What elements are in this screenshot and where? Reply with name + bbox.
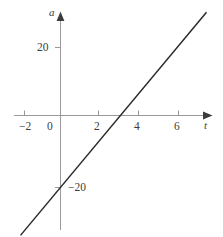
x-tick-label-0: 0 [47, 121, 53, 133]
y-tick-label-20: 20 [37, 42, 49, 54]
x-axis-label: t [204, 120, 207, 131]
x-tick-label--2: −2 [19, 121, 31, 133]
y-tick-label--20: −20 [68, 182, 86, 194]
y-axis-label: a [49, 7, 55, 18]
x-tick-label-4: 4 [134, 121, 140, 133]
y-axis-arrow-icon [57, 12, 65, 22]
graph-figure: −2 0 2 4 6 20 −20 a t [0, 0, 223, 237]
x-tick-label-2: 2 [94, 121, 100, 133]
plot-area [0, 0, 223, 237]
x-tick-label-6: 6 [174, 121, 180, 133]
x-axis-ticks [25, 111, 179, 116]
